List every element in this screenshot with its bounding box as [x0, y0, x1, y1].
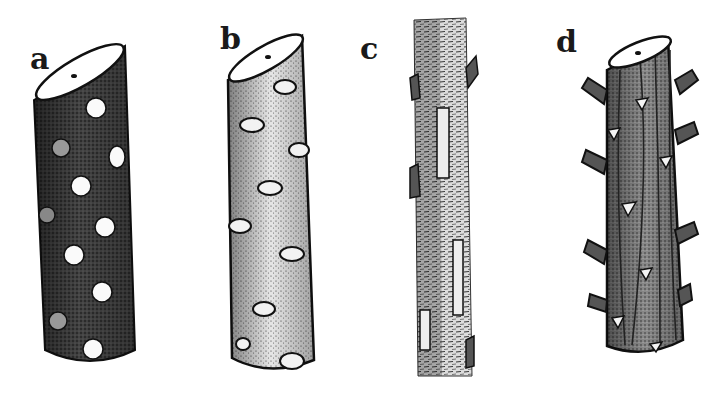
stem-d — [582, 30, 698, 352]
panel-label-c: c — [360, 34, 378, 64]
stem-a — [30, 35, 135, 361]
panel-label-d: d — [556, 27, 577, 57]
panel-label-a: a — [30, 44, 49, 74]
panel-label-b: b — [220, 24, 241, 54]
botanical-stem-figure: a b c d — [0, 0, 720, 402]
stem-b — [224, 27, 314, 369]
stem-c — [410, 18, 478, 376]
